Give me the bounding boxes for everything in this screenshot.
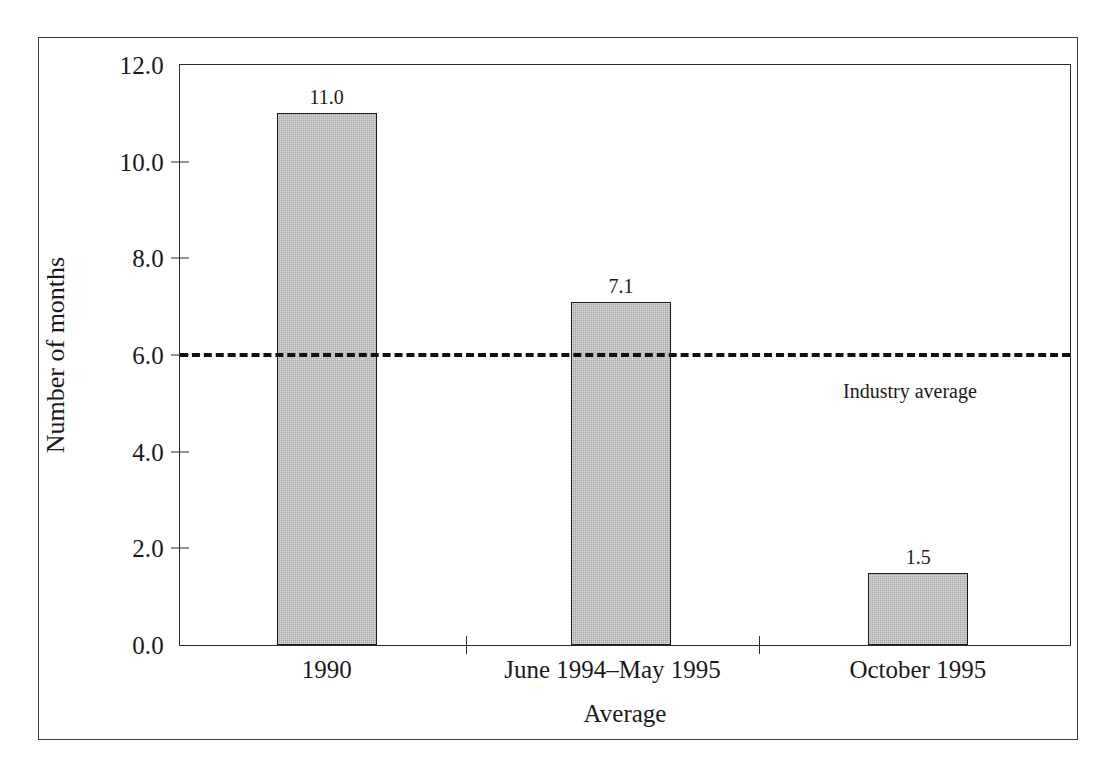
x-tick-mark-1 (466, 636, 467, 654)
y-tick-label-2: 2.0 (132, 536, 180, 561)
bar-1990[interactable]: 11.0 (277, 113, 377, 645)
x-category-label-june-1994-may-1995: June 1994–May 1995 (504, 657, 721, 682)
y-tick-label-6: 6.0 (132, 343, 180, 368)
y-tick-label-12: 12.0 (119, 53, 180, 78)
y-axis-title: Number of months (36, 64, 76, 646)
y-tick-label-0: 0.0 (132, 633, 180, 658)
figure-frame: Number of months 0.0 2.0 4.0 6.0 8.0 10.… (38, 37, 1078, 740)
bar-value-june-1994-may-1995: 7.1 (609, 276, 634, 296)
x-category-label-1990: 1990 (302, 657, 352, 682)
x-tick-mark-2 (759, 636, 760, 654)
industry-average-label: Industry average (843, 381, 977, 401)
industry-average-line (180, 353, 1070, 357)
y-tick-label-8: 8.0 (132, 246, 180, 271)
x-axis-title-label: Average (179, 701, 1071, 726)
bar-value-1990: 11.0 (309, 87, 343, 107)
y-tick-label-4: 4.0 (132, 439, 180, 464)
bar-value-october-1995: 1.5 (906, 547, 931, 567)
plot-area: 0.0 2.0 4.0 6.0 8.0 10.0 12.0 11.0 7.1 1… (179, 64, 1071, 646)
bar-october-1995[interactable]: 1.5 (868, 573, 968, 646)
y-axis-title-label: Number of months (43, 257, 69, 453)
x-category-label-october-1995: October 1995 (849, 657, 986, 682)
y-tick-label-10: 10.0 (119, 149, 180, 174)
